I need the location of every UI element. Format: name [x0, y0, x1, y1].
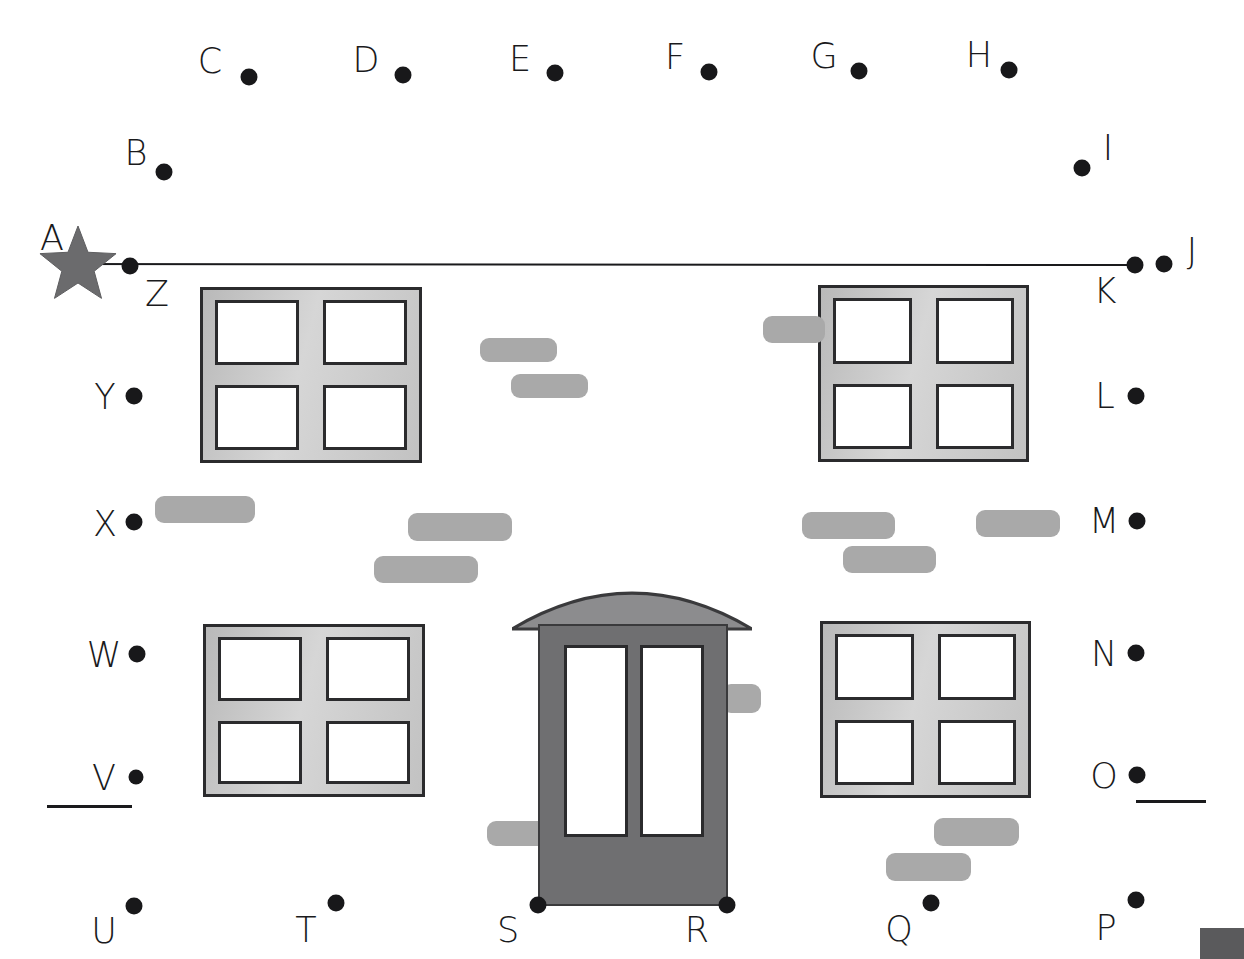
- dot-label-v: V: [92, 761, 116, 796]
- dot-d[interactable]: [395, 67, 412, 84]
- window-pane: [215, 385, 299, 450]
- dot-c[interactable]: [241, 69, 258, 86]
- dot-y[interactable]: [126, 388, 143, 405]
- window-pane: [936, 384, 1015, 450]
- dot-h[interactable]: [1001, 62, 1018, 79]
- dot-v[interactable]: [129, 770, 144, 785]
- underline-below-o: [1136, 800, 1206, 803]
- window-pane: [215, 300, 299, 365]
- dot-label-b: B: [125, 136, 148, 171]
- dot-z[interactable]: [122, 258, 139, 275]
- dot-label-h: H: [966, 38, 992, 73]
- dot-t[interactable]: [328, 895, 345, 912]
- door-glass-left: [564, 645, 628, 837]
- window-pane: [326, 637, 410, 701]
- worksheet-canvas: ABCDEFGHIJKLMNOPQRSTUVWXYZ ⌒: [0, 0, 1244, 959]
- brick-shape: [408, 513, 512, 541]
- brick-shape: [155, 496, 255, 523]
- dot-l[interactable]: [1128, 388, 1145, 405]
- dot-label-w: W: [87, 638, 122, 673]
- dot-b[interactable]: [156, 164, 173, 181]
- dot-label-c: C: [198, 44, 222, 79]
- dot-label-f: F: [665, 40, 685, 75]
- dot-label-g: G: [810, 39, 837, 74]
- dot-x[interactable]: [126, 514, 143, 531]
- window-pane: [323, 385, 407, 450]
- brick-shape: [480, 338, 557, 362]
- dot-w[interactable]: [129, 646, 146, 663]
- dot-f[interactable]: [701, 64, 718, 81]
- window-pane: [938, 634, 1017, 700]
- dot-label-p: P: [1095, 911, 1116, 946]
- dot-p[interactable]: [1128, 892, 1145, 909]
- window-pane-cell: [823, 624, 926, 710]
- window-pane: [326, 721, 410, 785]
- window-pane-cell: [926, 624, 1029, 710]
- brick-shape: [511, 374, 588, 398]
- window-pane-cell: [203, 375, 311, 460]
- window-pane: [835, 634, 914, 700]
- window-pane: [835, 720, 914, 786]
- window-pane-cell: [926, 710, 1029, 796]
- dot-i[interactable]: [1074, 160, 1091, 177]
- window-pane: [323, 300, 407, 365]
- dot-n[interactable]: [1128, 645, 1145, 662]
- window-pane: [833, 298, 912, 364]
- dot-k[interactable]: [1127, 257, 1144, 274]
- window-bottom-right: [820, 621, 1031, 798]
- window-pane-cell: [311, 375, 419, 460]
- dot-label-j: J: [1187, 234, 1197, 269]
- dot-s[interactable]: [530, 897, 547, 914]
- dot-label-y: Y: [94, 380, 115, 415]
- dot-label-t: T: [295, 913, 316, 948]
- brick-shape: [976, 510, 1060, 537]
- dot-label-d: D: [353, 43, 380, 78]
- window-top-left: [200, 287, 422, 463]
- dot-label-r: R: [685, 913, 709, 948]
- window-pane-cell: [924, 288, 1027, 374]
- dot-label-q: Q: [885, 912, 913, 947]
- dot-label-x: X: [93, 507, 117, 542]
- window-pane: [833, 384, 912, 450]
- brick-shape: [934, 818, 1019, 846]
- dot-g[interactable]: [851, 63, 868, 80]
- dot-q[interactable]: [923, 895, 940, 912]
- door-glass-right: [640, 645, 704, 837]
- window-pane-cell: [823, 710, 926, 796]
- window-pane-cell: [206, 627, 314, 711]
- window-pane-cell: [311, 290, 419, 375]
- dot-j[interactable]: [1156, 256, 1173, 273]
- underline-below-v: [47, 805, 132, 808]
- brick-shape: [374, 556, 478, 583]
- dot-label-a: A: [40, 221, 64, 256]
- dot-m[interactable]: [1129, 513, 1146, 530]
- brick-shape: [802, 512, 895, 539]
- dot-label-n: N: [1091, 637, 1117, 672]
- dot-label-s: S: [497, 913, 519, 948]
- dot-label-o: O: [1090, 759, 1118, 794]
- dot-o[interactable]: [1129, 767, 1146, 784]
- brick-shape: [763, 316, 825, 343]
- dot-r[interactable]: [719, 897, 736, 914]
- brick-shape: [843, 546, 936, 573]
- window-pane-cell: [821, 374, 924, 460]
- line-a-to-k: [64, 264, 1135, 265]
- dot-label-u: U: [91, 914, 117, 949]
- dot-e[interactable]: [547, 65, 564, 82]
- dot-label-e: E: [509, 42, 531, 77]
- window-pane: [218, 721, 302, 785]
- dot-label-k: K: [1094, 274, 1117, 309]
- dot-u[interactable]: [126, 898, 143, 915]
- window-top-right: [818, 285, 1029, 462]
- window-pane: [938, 720, 1017, 786]
- window-pane: [218, 637, 302, 701]
- dot-label-i: I: [1103, 131, 1113, 166]
- window-pane-cell: [206, 711, 314, 795]
- dot-label-m: M: [1089, 504, 1119, 539]
- brick-shape: [886, 853, 971, 881]
- window-bottom-left: [203, 624, 425, 797]
- window-pane-cell: [314, 627, 422, 711]
- window-pane-cell: [924, 374, 1027, 460]
- crop-mark: ⌒: [735, 0, 761, 23]
- window-pane-cell: [821, 288, 924, 374]
